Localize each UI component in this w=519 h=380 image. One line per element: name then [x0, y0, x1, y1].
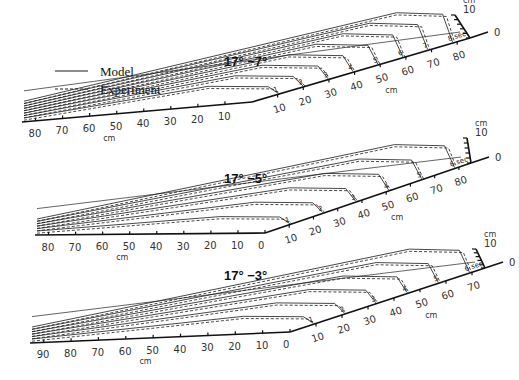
figure: Model Experiment 17° −7° 17° −5° 17° −3°…: [0, 0, 519, 380]
far-tick-label: 20: [336, 322, 352, 336]
zero-axis-ext: [470, 32, 488, 38]
near-unit-label: cm: [116, 253, 128, 262]
near-tick-label: 0: [258, 240, 264, 251]
panel-3-title: 17° −3°: [224, 268, 267, 283]
near-tick-label: 60: [96, 241, 109, 252]
far-tick-label: 40: [388, 305, 404, 319]
near-tick-label: 30: [177, 241, 190, 252]
near-unit-label: cm: [103, 134, 115, 143]
near-tick-label: 70: [56, 125, 69, 136]
time-label: 1: [284, 216, 291, 225]
channel-top-line: [37, 157, 461, 209]
near-tick-label: 10: [218, 111, 231, 122]
far-tick-label: 30: [332, 215, 348, 229]
time-label: 4: [347, 63, 354, 72]
time-label: 5: [372, 56, 379, 65]
experiment-profile: [24, 78, 305, 118]
near-tick-label: 90: [37, 349, 50, 360]
time-label: 7: [422, 41, 429, 50]
time-label: 2: [339, 305, 346, 314]
near-tick-label: 20: [228, 341, 241, 352]
far-tick-label: 50: [380, 198, 396, 212]
far-tick-label: 80: [451, 48, 467, 62]
far-unit-label: cm: [391, 213, 403, 222]
far-tick-label: 30: [362, 313, 378, 327]
model-profile: [37, 202, 323, 228]
far-tick-label: 80: [453, 174, 469, 188]
far-tick-label: 70: [429, 182, 445, 196]
far-tick-label: 50: [374, 71, 390, 85]
near-tick-label: 20: [204, 240, 217, 251]
zero-axis-ext: [471, 157, 489, 163]
model-profile: [37, 188, 356, 226]
near-tick-label: 20: [191, 114, 204, 125]
experiment-profile: [32, 319, 315, 342]
far-tick-label: 20: [308, 223, 324, 237]
time-label: 2: [297, 78, 304, 87]
near-tick-label: 80: [29, 128, 42, 139]
far-tick-label: 10: [310, 330, 326, 344]
far-tick-label: 70: [426, 56, 442, 70]
near-tick-label: 50: [123, 241, 136, 252]
near-axis: [35, 233, 265, 235]
height-ten-label: 10: [475, 127, 488, 138]
far-tick-label: 60: [440, 287, 456, 301]
near-unit-label: cm: [139, 357, 151, 366]
model-profile: [37, 173, 389, 223]
height-unit-label: cm: [484, 230, 496, 239]
far-tick-label: 20: [297, 94, 313, 108]
time-label: 2: [317, 204, 324, 213]
near-tick-label: 60: [119, 346, 132, 357]
zero-axis-ext: [485, 262, 503, 268]
channel-top-line: [24, 32, 460, 91]
near-tick-label: 70: [91, 347, 104, 358]
far-tick-label: 60: [400, 63, 416, 77]
far-unit-label: cm: [425, 311, 437, 320]
time-label: 3: [350, 193, 357, 202]
height-zero-label: 0: [494, 27, 500, 38]
time-label: 3: [322, 71, 329, 80]
near-tick-label: 40: [174, 344, 187, 355]
time-label: 3: [370, 295, 377, 304]
time-label: 5: [416, 171, 423, 180]
time-label: 4: [401, 284, 408, 293]
near-tick-label: 70: [69, 242, 82, 253]
height-ten-label: 10: [484, 238, 497, 249]
far-tick-label: 50: [414, 296, 430, 310]
near-tick-label: 60: [83, 123, 96, 134]
far-axis: [265, 163, 471, 233]
far-tick-label: 70: [466, 279, 482, 293]
near-tick-label: 30: [201, 342, 214, 353]
time-label: 1: [308, 315, 315, 324]
time-label: 6: [397, 49, 404, 58]
far-tick-label: 40: [356, 207, 372, 221]
near-tick-label: 40: [137, 118, 150, 129]
near-tick-label: 30: [164, 116, 177, 127]
far-axis: [290, 268, 485, 332]
near-tick-label: 10: [256, 340, 269, 351]
far-axis: [252, 38, 470, 102]
near-tick-label: 80: [42, 242, 55, 253]
near-tick-label: 50: [110, 121, 123, 132]
height-unit-label: cm: [475, 119, 487, 128]
panel-1: 010cm8070605040302010cm1020304050607080c…: [22, 0, 500, 143]
height-zero-label: 0: [495, 152, 501, 163]
height-unit-label: cm: [463, 0, 475, 5]
near-tick-label: 80: [64, 348, 77, 359]
far-tick-label: 60: [404, 190, 420, 204]
far-tick-label: 30: [323, 86, 339, 100]
time-label: 4: [383, 182, 390, 191]
near-tick-label: 50: [146, 345, 159, 356]
near-tick-label: 10: [231, 240, 244, 251]
height-zero-label: 0: [509, 257, 515, 268]
far-tick-label: 40: [349, 79, 365, 93]
far-unit-label: cm: [385, 86, 397, 95]
near-tick-label: 40: [150, 241, 163, 252]
height-ten-label: 10: [463, 4, 476, 15]
near-tick-label: 0: [283, 339, 289, 350]
far-tick-label: 10: [272, 101, 288, 115]
far-tick-label: 10: [283, 231, 299, 245]
time-label: 1: [273, 85, 280, 94]
